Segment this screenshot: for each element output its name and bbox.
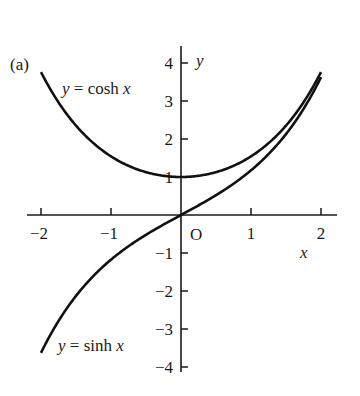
cosh-curve-label: y = cosh x [60,79,131,98]
y-tick-label: 2 [165,130,174,149]
x-axis-ticks: −2−112 [30,208,325,243]
y-tick-label: −3 [155,320,173,339]
x-tick-label: 2 [317,224,326,243]
panel-label: (a) [10,55,29,74]
chart-plot-area: −2−112 −4−3−2−11234 (a) y x O y = cosh x… [0,0,360,396]
y-tick-label: −1 [155,244,173,263]
y-tick-label: −2 [155,282,173,301]
x-axis-label: x [299,243,308,262]
x-tick-label: −2 [30,224,48,243]
y-tick-label: 4 [165,54,174,73]
x-tick-label: −1 [100,224,118,243]
x-tick-label: 1 [247,224,256,243]
y-tick-label: 3 [165,92,174,111]
sinh-curve-label: y = sinh x [56,336,124,355]
y-axis-label: y [194,51,204,70]
origin-label: O [190,225,202,244]
y-tick-label: −4 [155,358,174,377]
